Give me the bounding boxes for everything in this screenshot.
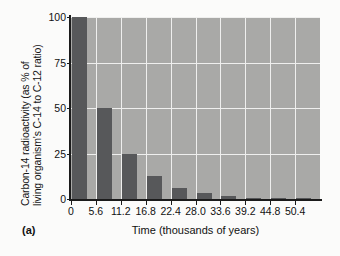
y-axis-tick-label: 50 [40,103,66,114]
y-axis-tick-labels: 0255075100 [40,0,66,212]
plot-area [71,17,320,199]
vertical-gridline [220,17,221,199]
bar [197,193,212,199]
vertical-gridline [245,17,246,199]
vertical-gridline [196,17,197,199]
bar [147,176,162,199]
y-axis-tick-mark [67,63,71,64]
bar [271,198,286,199]
y-axis-tick-mark [67,199,71,200]
vertical-gridline [270,17,271,199]
y-axis-tick-label: 25 [40,149,66,160]
y-axis-tick-label: 75 [40,58,66,69]
bar [296,198,311,199]
bar [72,17,87,199]
vertical-gridline [295,17,296,199]
vertical-gridline [171,17,172,199]
y-axis-tick-mark [67,17,71,18]
bar [172,188,187,199]
figure-panel-a: Carbon-14 radioactivity (as % of living … [0,0,340,256]
bar [97,108,112,199]
y-axis-tick-mark [67,154,71,155]
bar [221,196,236,199]
x-axis-tick-label: 50.4 [279,206,311,217]
x-axis-title: Time (thousands of years) [71,224,320,236]
y-axis-title-line-1: Carbon-14 radioactivity (as % of [19,61,31,206]
panel-label: (a) [22,224,35,236]
y-axis-tick-label: 100 [40,12,66,23]
vertical-gridline [146,17,147,199]
bar [122,154,137,200]
bar [246,198,261,199]
y-axis-tick-label: 0 [40,194,66,205]
y-axis-tick-mark [67,108,71,109]
